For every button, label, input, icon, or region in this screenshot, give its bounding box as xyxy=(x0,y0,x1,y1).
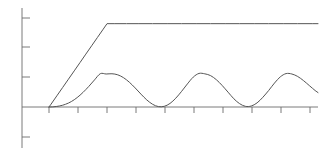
axes-group xyxy=(22,8,318,148)
series-step-response-saturating xyxy=(49,24,318,107)
data-series-group xyxy=(49,24,318,107)
x-axis-ticks xyxy=(49,107,310,113)
plot-canvas xyxy=(0,0,331,153)
plot-figure xyxy=(0,0,331,153)
y-axis-ticks xyxy=(22,18,30,137)
series-oscillatory-response xyxy=(49,73,318,107)
